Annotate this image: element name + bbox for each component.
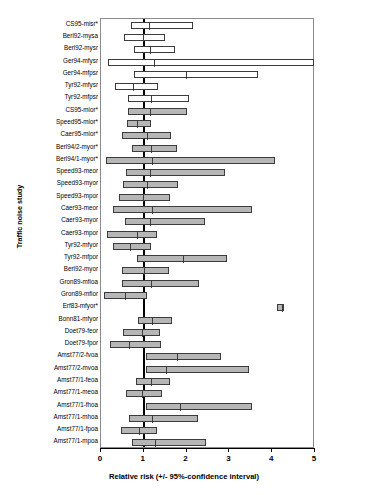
point-estimate-marker [177,354,178,361]
point-estimate-marker [129,342,130,349]
x-axis-tick [100,448,101,452]
point-estimate-marker [147,133,148,140]
confidence-interval-bar [131,22,193,29]
study-label: Berl94/1-myor* [18,156,98,162]
x-axis-tick [186,448,187,452]
x-axis-tick-label: 5 [302,454,326,463]
study-label: Tyr92-mfysr [18,82,98,88]
x-axis-tick [143,448,144,452]
point-estimate-marker [151,96,152,103]
confidence-interval-bar [123,329,160,336]
confidence-interval-bar [136,378,170,385]
point-estimate-marker [144,268,145,275]
point-estimate-marker [150,219,151,226]
confidence-interval-bar [113,206,252,213]
confidence-interval-bar [115,83,159,90]
confidence-interval-bar [137,255,227,262]
study-label: Berl92-myor [18,266,98,272]
study-label: Ger94-mfysr [18,58,98,64]
confidence-interval-bar [128,95,189,102]
study-label: Amst77/1-fpoa [18,426,98,432]
point-estimate-marker [152,207,153,214]
forest-plot-figure: Traffic noise study CS95-misr*Berl92-mys… [0,0,368,495]
point-estimate-marker [143,195,144,202]
point-estimate-marker [180,404,181,411]
confidence-interval-bar [125,218,204,225]
study-label: Doet79-fpor [18,340,98,346]
study-label: Amst77/2-fvoa [18,352,98,358]
point-estimate-marker [150,47,151,54]
confidence-interval-bar [277,304,284,311]
confidence-interval-bar [108,59,314,66]
study-label: Caer93-mpor [18,230,98,236]
x-axis-tick [271,448,272,452]
confidence-interval-bar [122,280,200,287]
confidence-interval-bar [146,366,249,373]
plot-area [100,18,314,448]
confidence-interval-bar [122,132,170,139]
confidence-interval-bar [146,353,221,360]
point-estimate-marker [166,367,167,374]
confidence-interval-bar [134,46,175,53]
study-label: Amst77/1-mhoa [18,414,98,420]
confidence-interval-bar [122,267,169,274]
study-label: Bonn81-mfyor [18,316,98,322]
confidence-interval-bar [123,181,178,188]
confidence-interval-bar [107,231,156,238]
confidence-interval-bar [146,403,252,410]
confidence-interval-bar [124,34,166,41]
point-estimate-marker [142,330,143,337]
study-label: CS95-mior* [18,107,98,113]
confidence-interval-bar [126,169,225,176]
study-label: Berl92-mysr [18,45,98,51]
confidence-interval-bar [119,194,170,201]
study-label: Amst77/1-feoa [18,377,98,383]
point-estimate-marker [155,440,156,447]
study-label: Caer95-mior* [18,131,98,137]
confidence-interval-bar [128,108,188,115]
point-estimate-marker [137,232,138,239]
x-axis-tick-label: 0 [88,454,112,463]
point-estimate-marker [137,121,138,128]
study-label: Caer93-meor [18,205,98,211]
study-label: CS95-misr* [18,21,98,27]
study-label: Gron89-mfior [18,291,98,297]
confidence-interval-bar [127,120,151,127]
point-estimate-marker [154,60,155,67]
confidence-interval-bar [104,292,147,299]
x-axis-tick [314,448,315,452]
study-label: Ger94-mfpsr [18,70,98,76]
point-estimate-marker [142,391,143,398]
point-estimate-marker [151,146,152,153]
point-estimate-marker [151,379,152,386]
point-estimate-marker [139,428,140,435]
confidence-interval-bar [110,341,161,348]
x-axis-tick-label: 1 [131,454,155,463]
confidence-interval-bar [126,390,162,397]
confidence-interval-bar [134,71,257,78]
point-estimate-marker [143,35,144,42]
confidence-interval-bar [106,157,275,164]
point-estimate-marker [151,281,152,288]
study-label: Caer93-myor [18,217,98,223]
confidence-interval-bar [121,427,157,434]
study-label: Speed95-mior* [18,119,98,125]
study-label: Tyr92-mfyor [18,242,98,248]
point-estimate-marker [147,182,148,189]
confidence-interval-bar [132,439,206,446]
study-label: Speed93-myor [18,180,98,186]
point-estimate-marker [130,244,131,251]
confidence-interval-bar [138,317,172,324]
point-estimate-marker [125,293,126,300]
study-label-column: CS95-misr*Berl92-mysaBerl92-mysrGer94-mf… [18,18,98,448]
point-estimate-marker [186,72,187,79]
confidence-interval-bar [129,415,198,422]
point-estimate-marker [152,158,153,165]
study-label: Tyr92-mfpsr [18,94,98,100]
study-label: Amst77/2-mvoa [18,365,98,371]
study-label: Berl94/2-myor* [18,144,98,150]
x-axis: 012345 [100,448,314,449]
x-axis-tick-label: 2 [174,454,198,463]
point-estimate-marker [150,109,151,116]
point-estimate-marker [149,23,150,30]
